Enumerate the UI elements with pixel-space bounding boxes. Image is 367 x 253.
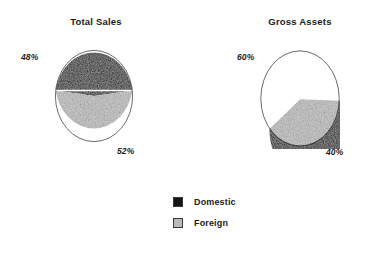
pie-chart-total-sales-svg <box>55 48 133 144</box>
legend-item-foreign: Foreign <box>173 217 236 229</box>
pie-label-total-sales-foreign: 52% <box>117 146 134 156</box>
legend-label-domestic: Domestic <box>194 197 236 207</box>
domestic-swatch-icon <box>173 197 183 207</box>
chart-legend: Domestic Foreign <box>173 196 236 229</box>
pie-label-total-sales-domestic: 48% <box>21 52 38 62</box>
pie-chart-total-sales <box>55 48 133 144</box>
figure-canvas: Total Sales <box>0 0 367 253</box>
chart-title-gross-assets: Gross Assets <box>248 16 352 27</box>
pie-label-gross-assets-domestic: 60% <box>237 52 254 62</box>
pie-slice-domestic <box>56 53 133 96</box>
pie-chart-gross-assets-svg <box>260 48 340 149</box>
chart-title-total-sales: Total Sales <box>46 16 146 27</box>
legend-label-foreign: Foreign <box>194 218 228 228</box>
pie-label-gross-assets-foreign: 40% <box>326 147 343 157</box>
legend-item-domestic: Domestic <box>173 196 236 208</box>
pie-slice-foreign <box>56 91 133 129</box>
foreign-swatch-icon <box>173 218 183 228</box>
pie-chart-gross-assets <box>260 48 340 149</box>
